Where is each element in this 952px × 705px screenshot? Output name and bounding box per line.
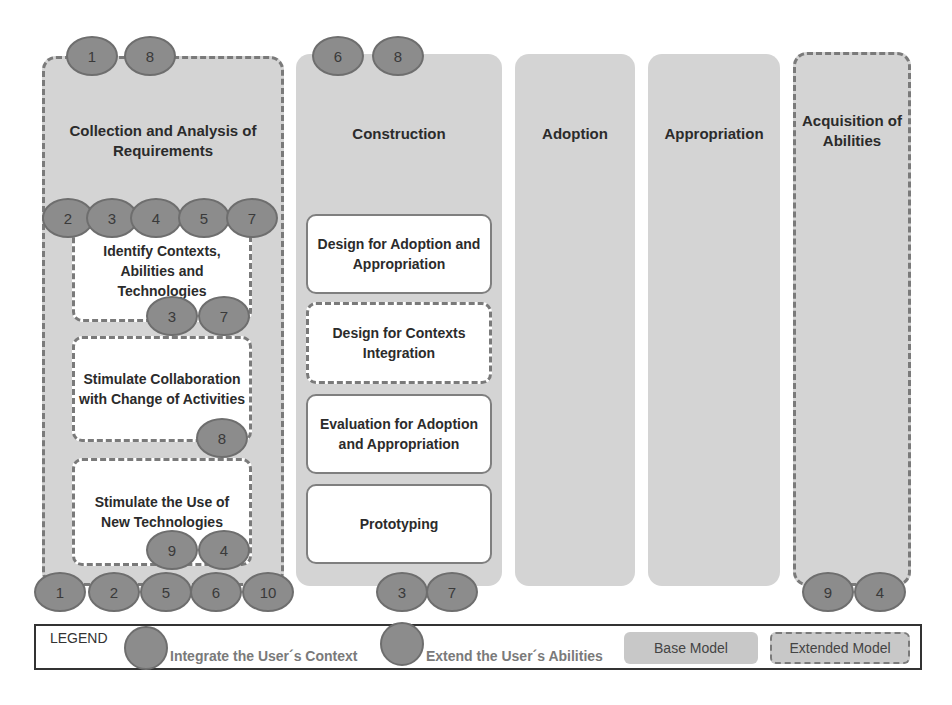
- badge: 6: [190, 572, 242, 612]
- activity-evaluation: Evaluation for Adoption and Appropriatio…: [306, 394, 492, 474]
- badge: 9: [802, 572, 854, 612]
- legend-extend-label: Extend the User´s Abilities: [426, 648, 603, 664]
- badge: 10: [242, 572, 294, 612]
- badge-integrate: 1: [66, 36, 118, 76]
- legend-base-model: Base Model: [624, 632, 758, 664]
- badge: 3: [146, 296, 198, 336]
- badge: 9: [146, 530, 198, 570]
- legend-extend-icon: [380, 622, 424, 666]
- activity-design-adoption: Design for Adoption and Appropriation: [306, 214, 492, 294]
- phase-title: Adoption: [515, 124, 635, 144]
- badge: 2: [88, 572, 140, 612]
- badge: 4: [854, 572, 906, 612]
- badge: 4: [198, 530, 250, 570]
- legend-integrate-label: Integrate the User´s Context: [170, 648, 357, 664]
- badge: 4: [130, 198, 182, 238]
- badge: 3: [376, 572, 428, 612]
- legend-extended-model: Extended Model: [770, 632, 910, 664]
- phase-title: Collection and Analysis of Requirements: [45, 121, 281, 161]
- badge: 8: [196, 418, 248, 458]
- activity-prototyping: Prototyping: [306, 484, 492, 564]
- legend: LEGEND Integrate the User´s Context Exte…: [34, 624, 922, 670]
- badge-extend: 8: [124, 36, 176, 76]
- activity-design-contexts: Design for Contexts Integration: [306, 302, 492, 384]
- phase-acquisition: Acquisition of Abilities: [793, 52, 911, 586]
- legend-integrate-icon: [124, 626, 168, 670]
- phase-title: Appropriation: [648, 124, 780, 144]
- badge: 1: [34, 572, 86, 612]
- phase-title: Construction: [296, 124, 502, 144]
- phase-appropriation: Appropriation: [648, 54, 780, 586]
- badge: 7: [426, 572, 478, 612]
- badge: 7: [198, 296, 250, 336]
- badge: 5: [178, 198, 230, 238]
- badge: 5: [140, 572, 192, 612]
- legend-title: LEGEND: [50, 630, 108, 646]
- badge-extend: 8: [372, 36, 424, 76]
- phase-adoption: Adoption: [515, 54, 635, 586]
- badge-integrate: 6: [312, 36, 364, 76]
- phase-title: Acquisition of Abilities: [796, 111, 908, 151]
- badge: 7: [226, 198, 278, 238]
